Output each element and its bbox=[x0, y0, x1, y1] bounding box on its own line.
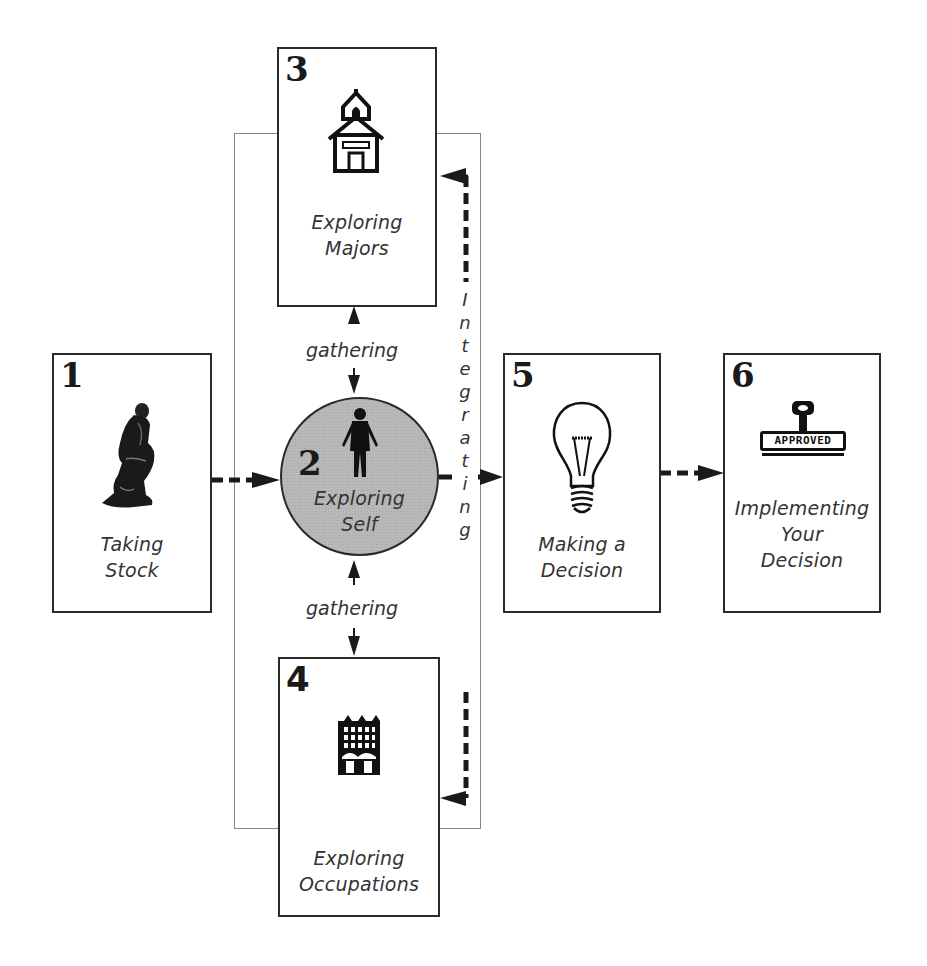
stamp-text: APPROVED bbox=[763, 434, 843, 448]
step-number: 4 bbox=[286, 659, 310, 699]
step-label: Exploring Occupations bbox=[280, 845, 438, 897]
step-label: Making a Decision bbox=[505, 531, 659, 583]
step-label: Taking Stock bbox=[54, 531, 210, 583]
step-number: 3 bbox=[285, 49, 309, 89]
step-3-card[interactable]: 3 Exploring Majors bbox=[277, 47, 437, 307]
arrow-step1-to-step2 bbox=[212, 472, 280, 488]
approved-stamp-icon: APPROVED bbox=[758, 401, 848, 459]
step-6-card[interactable]: 6 APPROVED Implementing Your Decision bbox=[723, 353, 881, 613]
step-label: Exploring Self bbox=[282, 485, 437, 537]
step-label: Implementing Your Decision bbox=[725, 495, 879, 573]
step-5-card[interactable]: 5 Making a Decision bbox=[503, 353, 661, 613]
step-number: 2 bbox=[298, 443, 322, 483]
step-number: 1 bbox=[60, 355, 84, 395]
gathering-label-bottom: gathering bbox=[306, 597, 398, 619]
step-label: Exploring Majors bbox=[279, 209, 435, 261]
person-icon bbox=[338, 407, 382, 481]
integrating-label: I n t e g r a t i n g bbox=[455, 288, 475, 541]
step-number: 5 bbox=[511, 355, 535, 395]
step-4-card[interactable]: 4 Exploring Occupations bbox=[278, 657, 440, 917]
step-2-circle[interactable]: 2 Exploring Self bbox=[280, 397, 439, 556]
step-number: 6 bbox=[731, 355, 755, 395]
lightbulb-icon bbox=[550, 400, 614, 518]
gathering-label-top: gathering bbox=[306, 339, 398, 361]
arrow-step5-to-step6 bbox=[660, 465, 724, 481]
office-building-icon bbox=[336, 713, 382, 775]
schoolhouse-icon bbox=[327, 87, 385, 177]
thinker-statue-icon bbox=[94, 403, 164, 511]
step-1-card[interactable]: 1 Taking Stock bbox=[52, 353, 212, 613]
